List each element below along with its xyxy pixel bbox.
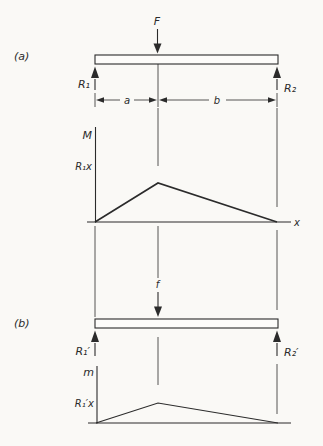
moment-peak-label-R1x: R₁x bbox=[75, 161, 92, 172]
moment-diagram-m: m R₁′x bbox=[75, 366, 291, 424]
moment-peak-label-R1px: R₁′x bbox=[75, 398, 94, 409]
reaction-r1-prime-label: R₁′ bbox=[75, 345, 90, 358]
x-axis-label: x bbox=[293, 217, 300, 228]
panel-a: (a) F R₁ R₂ bbox=[14, 15, 297, 107]
figure-canvas: (a) F R₁ R₂ bbox=[0, 0, 323, 446]
panel-a-tag: (a) bbox=[14, 50, 29, 63]
panel-b-tag: (b) bbox=[14, 317, 30, 330]
panel-b: (b) f R₁′ R₂′ bbox=[14, 226, 299, 414]
moment-diagram-M: M R₁x x bbox=[75, 108, 300, 228]
reaction-r1-arrow-icon bbox=[91, 67, 99, 91]
beam-a bbox=[95, 55, 278, 64]
interpanel-construction-lines bbox=[95, 226, 277, 317]
force-f-label: F bbox=[154, 15, 161, 28]
force-f-unit-arrow-icon bbox=[154, 292, 162, 317]
reaction-r2-arrow-icon bbox=[273, 67, 281, 91]
moment-axis-label-m: m bbox=[83, 366, 94, 379]
reaction-r2-prime-arrow-icon bbox=[273, 331, 281, 357]
reaction-r2-prime-label: R₂′ bbox=[284, 346, 299, 359]
span-b-label: b bbox=[214, 95, 220, 106]
force-f-arrow-icon bbox=[154, 29, 162, 54]
span-a-label: a bbox=[124, 95, 130, 106]
reaction-r1-prime-arrow-icon bbox=[91, 331, 99, 357]
reaction-r1-label: R₁ bbox=[78, 78, 90, 91]
beam-b bbox=[95, 319, 278, 328]
force-f-unit-label: f bbox=[156, 279, 161, 290]
beam-moment-figure: (a) F R₁ R₂ bbox=[0, 0, 323, 446]
dimension-line bbox=[95, 93, 277, 107]
reaction-r2-label: R₂ bbox=[284, 82, 297, 95]
moment-curve-b bbox=[96, 403, 278, 423]
moment-axis-label-M: M bbox=[83, 129, 93, 142]
moment-curve-a bbox=[95, 183, 277, 222]
